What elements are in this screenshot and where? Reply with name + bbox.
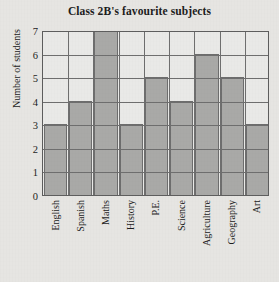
gridline-horizontal bbox=[43, 102, 268, 103]
bar bbox=[246, 124, 268, 195]
x-tick-slot: Geography bbox=[219, 198, 244, 280]
x-tick-slot: Maths bbox=[92, 198, 117, 280]
x-tick-slot: Agriculture bbox=[193, 198, 218, 280]
bar bbox=[120, 124, 143, 195]
x-tick-label: Spanish bbox=[74, 200, 85, 232]
gridline-vertical bbox=[169, 32, 170, 195]
gridline-vertical bbox=[245, 32, 246, 195]
chart-title: Class 2B's favourite subjects bbox=[0, 5, 279, 17]
plot-area bbox=[42, 31, 269, 196]
x-tick-slot: Science bbox=[168, 198, 193, 280]
gridline-horizontal bbox=[43, 55, 268, 56]
x-tick-label: Geography bbox=[226, 200, 237, 244]
y-tick-label: 7 bbox=[2, 26, 38, 37]
gridline-vertical bbox=[119, 32, 120, 195]
bar-band bbox=[245, 32, 268, 195]
gridline-vertical bbox=[144, 32, 145, 195]
x-tick-slot: Art bbox=[244, 198, 269, 280]
y-axis-tick-labels: 01234567 bbox=[0, 31, 38, 196]
gridline-vertical bbox=[68, 32, 69, 195]
y-tick-label: 6 bbox=[2, 49, 38, 60]
bar-band bbox=[220, 32, 245, 195]
x-tick-label: Maths bbox=[100, 200, 111, 225]
bar-band bbox=[43, 32, 68, 195]
gridline-horizontal bbox=[43, 172, 268, 173]
gridline-vertical bbox=[220, 32, 221, 195]
y-tick-label: 0 bbox=[2, 191, 38, 202]
bar-band bbox=[169, 32, 194, 195]
bar bbox=[94, 32, 117, 195]
y-tick-label: 5 bbox=[2, 73, 38, 84]
x-tick-label: Science bbox=[175, 200, 186, 231]
gridline-horizontal bbox=[43, 78, 268, 79]
plot-inner bbox=[43, 32, 268, 195]
x-tick-slot: English bbox=[42, 198, 67, 280]
x-tick-label: History bbox=[125, 200, 136, 230]
x-tick-slot: P.E. bbox=[143, 198, 168, 280]
bar-band bbox=[119, 32, 144, 195]
x-tick-label: Agriculture bbox=[200, 200, 211, 246]
bar-band bbox=[93, 32, 118, 195]
y-tick-label: 3 bbox=[2, 120, 38, 131]
y-tick-label: 2 bbox=[2, 143, 38, 154]
gridline-vertical bbox=[194, 32, 195, 195]
bar-band bbox=[194, 32, 219, 195]
bar bbox=[44, 124, 67, 195]
x-tick-slot: Spanish bbox=[67, 198, 92, 280]
y-tick-label: 1 bbox=[2, 167, 38, 178]
x-tick-label: English bbox=[49, 200, 60, 231]
bar-band bbox=[68, 32, 93, 195]
y-tick-label: 4 bbox=[2, 96, 38, 107]
bar bbox=[195, 54, 218, 195]
bar bbox=[221, 77, 244, 195]
bar-band bbox=[144, 32, 169, 195]
gridline-vertical bbox=[93, 32, 94, 195]
x-axis-tick-labels: EnglishSpanishMathsHistoryP.E.ScienceAgr… bbox=[42, 198, 269, 280]
x-tick-slot: History bbox=[118, 198, 143, 280]
gridline-horizontal bbox=[43, 125, 268, 126]
x-tick-label: P.E. bbox=[150, 200, 161, 216]
bar bbox=[145, 77, 168, 195]
x-tick-label: Art bbox=[251, 200, 262, 213]
gridline-horizontal bbox=[43, 149, 268, 150]
bar-chart-figure: Class 2B's favourite subjects Number of … bbox=[0, 0, 279, 282]
